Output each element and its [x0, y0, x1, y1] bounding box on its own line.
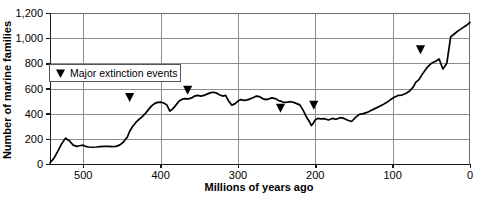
- chart-canvas: 02004006008001,0001,200 5004003002001000…: [0, 0, 478, 197]
- gridlines-group: [50, 13, 470, 164]
- y-tick-label: 600: [25, 83, 43, 95]
- y-tick-label: 1,200: [15, 7, 43, 19]
- y-tick-label: 1,000: [15, 32, 43, 44]
- extinction-marker-end-permian-extinction: [276, 104, 285, 113]
- x-tick-label: 300: [229, 169, 247, 181]
- y-tick-label: 0: [37, 158, 43, 170]
- extinction-marker-end-cretaceous-extinction: [416, 45, 425, 54]
- y-tick-label: 800: [25, 57, 43, 69]
- legend: Major extinction events: [50, 65, 181, 82]
- y-tick-label: 400: [25, 108, 43, 120]
- extinction-marker-late-devonian-extinction: [183, 86, 192, 95]
- x-tick-label: 500: [74, 169, 92, 181]
- x-axis-tick-labels: 5004003002001000: [74, 164, 473, 181]
- x-tick-label: 100: [383, 169, 401, 181]
- y-axis-title: Number of marine families: [1, 21, 13, 159]
- series-line-marine-families: [50, 22, 470, 162]
- y-tick-label: 200: [25, 133, 43, 145]
- marine-families-chart-figure: 02004006008001,0001,200 5004003002001000…: [0, 0, 478, 197]
- extinction-marker-late-ordovician-extinction: [125, 93, 134, 102]
- x-tick-label: 400: [151, 169, 169, 181]
- x-axis-title: Millions of years ago: [205, 181, 314, 193]
- x-tick-label: 0: [467, 169, 473, 181]
- x-tick-label: 200: [306, 169, 324, 181]
- legend-label: Major extinction events: [70, 67, 177, 79]
- y-axis-tick-labels: 02004006008001,0001,200: [15, 7, 50, 170]
- data-series-line: [50, 22, 470, 162]
- extinction-marker-end-triassic-extinction: [309, 101, 318, 110]
